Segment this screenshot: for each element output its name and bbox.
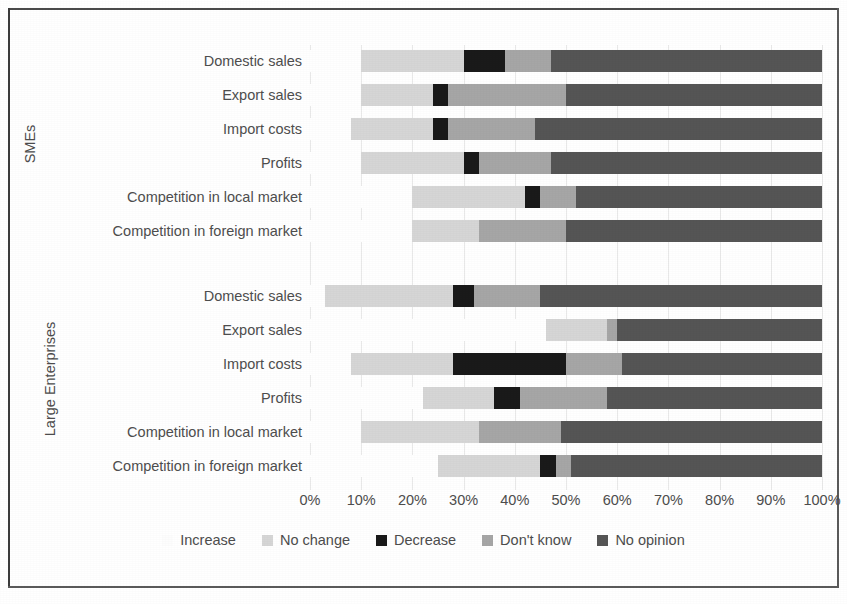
bar-segment-increase xyxy=(310,387,423,409)
category-label: Domestic sales xyxy=(0,50,302,72)
bar-segment-no-change xyxy=(546,319,607,341)
bar-segment-no-opinion xyxy=(561,421,822,443)
legend-item: No opinion xyxy=(597,532,684,548)
bar-segment-increase xyxy=(310,220,412,242)
bar-segment-increase xyxy=(310,50,361,72)
bar-segment-no-change xyxy=(423,387,495,409)
legend-label: Increase xyxy=(180,532,236,548)
bar-row xyxy=(310,152,822,174)
bar-segment-don-t-know xyxy=(520,387,607,409)
bar-segment-decrease xyxy=(540,455,555,477)
bar-segment-decrease xyxy=(433,118,448,140)
x-tick-label: 60% xyxy=(603,492,632,508)
bar-segment-don-t-know xyxy=(479,421,561,443)
bar-row xyxy=(310,285,822,307)
bar-segment-no-change xyxy=(412,220,479,242)
bar-segment-no-opinion xyxy=(566,220,822,242)
x-tick-label: 70% xyxy=(654,492,683,508)
bar-segment-decrease xyxy=(525,186,540,208)
bar-segment-decrease xyxy=(464,50,505,72)
bar-segment-don-t-know xyxy=(448,118,535,140)
chart-legend: IncreaseNo changeDecreaseDon't knowNo op… xyxy=(0,532,847,548)
bar-row xyxy=(310,353,822,375)
bar-segment-no-opinion xyxy=(622,353,822,375)
chart-figure: SMEs Large Enterprises 0%10%20%30%40%50%… xyxy=(0,0,847,604)
bar-segment-don-t-know xyxy=(479,220,566,242)
bar-segment-increase xyxy=(310,455,438,477)
category-label: Competition in foreign market xyxy=(0,220,302,242)
bar-row xyxy=(310,319,822,341)
x-tick-label: 0% xyxy=(300,492,321,508)
bar-segment-don-t-know xyxy=(556,455,571,477)
bar-segment-increase xyxy=(310,152,361,174)
bar-segment-don-t-know xyxy=(505,50,551,72)
bar-segment-decrease xyxy=(453,285,473,307)
bar-segment-no-opinion xyxy=(571,455,822,477)
x-tick-label: 20% xyxy=(398,492,427,508)
x-tick-label: 50% xyxy=(551,492,580,508)
bar-segment-don-t-know xyxy=(566,353,622,375)
bar-segment-don-t-know xyxy=(448,84,566,106)
bar-segment-no-change xyxy=(361,50,463,72)
bar-segment-no-opinion xyxy=(576,186,822,208)
bar-segment-no-change xyxy=(412,186,525,208)
bar-segment-increase xyxy=(310,319,546,341)
bar-row xyxy=(310,455,822,477)
category-label: Export sales xyxy=(0,319,302,341)
legend-label: Decrease xyxy=(394,532,456,548)
legend-swatch-increase xyxy=(162,535,173,546)
bar-segment-increase xyxy=(310,285,325,307)
legend-swatch-decrease xyxy=(376,535,387,546)
category-label: Competition in local market xyxy=(0,421,302,443)
bar-segment-no-change xyxy=(325,285,453,307)
category-label: Competition in local market xyxy=(0,186,302,208)
bar-segment-increase xyxy=(310,118,351,140)
bar-segment-no-opinion xyxy=(540,285,822,307)
category-label: Import costs xyxy=(0,353,302,375)
figure-border-top xyxy=(8,8,839,10)
x-tick-label: 30% xyxy=(449,492,478,508)
category-label: Competition in foreign market xyxy=(0,455,302,477)
bar-segment-decrease xyxy=(433,84,448,106)
legend-swatch-no-change xyxy=(262,535,273,546)
category-label: Domestic sales xyxy=(0,285,302,307)
bar-segment-no-opinion xyxy=(551,152,822,174)
bar-segment-no-change xyxy=(351,353,453,375)
legend-item: Decrease xyxy=(376,532,456,548)
legend-label: No change xyxy=(280,532,350,548)
x-tick-label: 10% xyxy=(347,492,376,508)
x-tick-label: 100% xyxy=(803,492,840,508)
bar-segment-don-t-know xyxy=(474,285,541,307)
bar-segment-no-change xyxy=(361,152,463,174)
bar-segment-no-opinion xyxy=(607,387,822,409)
bar-segment-no-change xyxy=(351,118,433,140)
legend-item: Increase xyxy=(162,532,236,548)
bar-segment-don-t-know xyxy=(540,186,576,208)
legend-label: Don't know xyxy=(500,532,571,548)
bar-row xyxy=(310,84,822,106)
plot-area xyxy=(310,45,822,490)
bar-segment-decrease xyxy=(464,152,479,174)
category-label: Import costs xyxy=(0,118,302,140)
category-label: Profits xyxy=(0,152,302,174)
bar-segment-no-change xyxy=(438,455,540,477)
bar-row xyxy=(310,118,822,140)
category-label: Profits xyxy=(0,387,302,409)
gridline xyxy=(822,45,823,490)
bar-row xyxy=(310,186,822,208)
bar-segment-increase xyxy=(310,84,361,106)
legend-label: No opinion xyxy=(615,532,684,548)
category-label: Export sales xyxy=(0,84,302,106)
bar-segment-no-opinion xyxy=(551,50,822,72)
x-tick-label: 80% xyxy=(705,492,734,508)
legend-item: Don't know xyxy=(482,532,571,548)
legend-item: No change xyxy=(262,532,350,548)
bar-segment-increase xyxy=(310,186,412,208)
bar-segment-no-opinion xyxy=(535,118,822,140)
bar-segment-decrease xyxy=(453,353,566,375)
bar-segment-increase xyxy=(310,353,351,375)
bar-segment-don-t-know xyxy=(607,319,617,341)
x-axis-ticks: 0%10%20%30%40%50%60%70%80%90%100% xyxy=(310,492,822,514)
bar-row xyxy=(310,220,822,242)
bar-row xyxy=(310,387,822,409)
